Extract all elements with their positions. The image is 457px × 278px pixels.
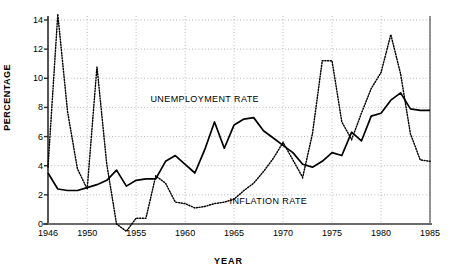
plot-area — [48, 20, 430, 224]
chart-figure: PERCENTAGE 02468101214 YEAR 194619501955… — [0, 0, 457, 278]
x-tick-label: 1950 — [77, 228, 97, 238]
x-tick-label: 1946 — [38, 228, 58, 238]
series-annotation-inflation-rate: INFLATION RATE — [229, 196, 307, 206]
x-tick-label: 1965 — [224, 228, 244, 238]
x-tick-label: 1980 — [371, 228, 391, 238]
y-axis-tick-labels: 02468101214 — [0, 20, 48, 224]
x-tick-label: 1970 — [273, 228, 293, 238]
series-line-unemployment-rate — [48, 93, 430, 191]
x-tick-label: 1975 — [322, 228, 342, 238]
x-tick-label: 1960 — [175, 228, 195, 238]
x-tick-label: 1985 — [420, 228, 440, 238]
series-annotation-unemployment-rate: UNEMPLOYMENT RATE — [150, 94, 258, 104]
x-axis-title: YEAR — [0, 256, 457, 266]
x-tick-label: 1955 — [126, 228, 146, 238]
